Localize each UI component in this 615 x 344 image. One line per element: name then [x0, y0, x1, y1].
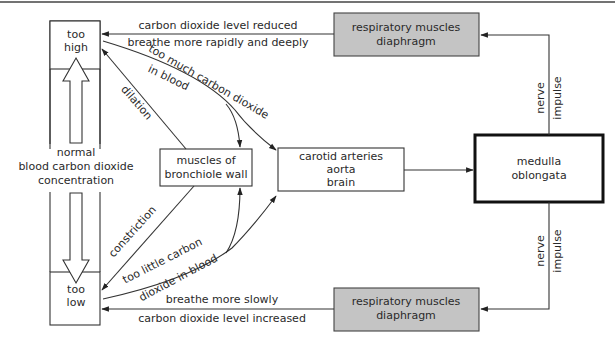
label-dilation: dilation — [118, 83, 155, 122]
medulla-line2: oblongata — [511, 169, 566, 182]
resp-top-line2: diaphragm — [376, 35, 436, 48]
curve-too-little-co2-to-bronchiole — [226, 188, 240, 253]
resp-bottom-line2: diaphragm — [376, 309, 436, 322]
too-low-label: too — [67, 283, 85, 296]
carbon-dioxide-regulation-diagram: too high too low normal blood carbon dio… — [0, 0, 615, 344]
carotid-line2: aorta — [326, 163, 355, 176]
label-constriction: constriction — [106, 203, 159, 260]
normal-label-3: concentration — [38, 174, 114, 187]
carotid-line1: carotid arteries — [299, 150, 383, 163]
carotid-line3: brain — [327, 176, 355, 189]
too-high-label-2: high — [64, 41, 88, 54]
label-co2-reduced: carbon dioxide level reduced — [138, 19, 297, 32]
normal-label-2: blood carbon dioxide — [18, 160, 133, 173]
bronchiole-line1: muscles of — [176, 154, 236, 167]
nerve-bottom-1: nerve — [534, 235, 547, 267]
bronchiole-line2: bronchiole wall — [165, 168, 248, 181]
nerve-top-1: nerve — [534, 82, 547, 114]
curve-too-much-co2-to-bronchiole — [226, 104, 240, 147]
nerve-top-2: impulse — [551, 76, 564, 120]
nerve-bottom-2: impulse — [551, 229, 564, 273]
label-co2-increased: carbon dioxide level increased — [138, 312, 306, 325]
resp-bottom-line1: respiratory muscles — [352, 295, 461, 308]
too-low-label-2: low — [67, 296, 86, 309]
too-high-label: too — [67, 28, 85, 41]
label-breathe-slowly: breathe more slowly — [166, 293, 279, 306]
resp-top-line1: respiratory muscles — [352, 21, 461, 34]
normal-label: normal — [57, 146, 96, 159]
medulla-line1: medulla — [517, 155, 561, 168]
